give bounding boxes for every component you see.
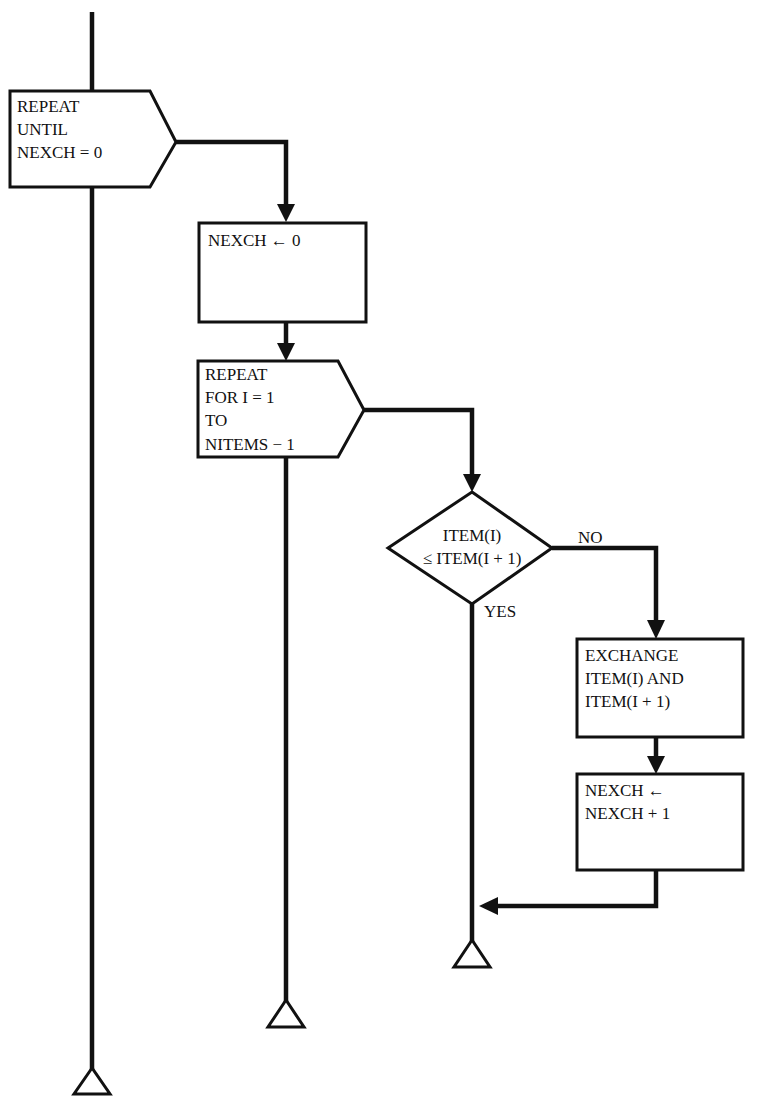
inner-loop-line-2: FOR I = 1 bbox=[205, 388, 275, 407]
inner-loop-line-4: NITEMS − 1 bbox=[205, 435, 295, 454]
decision-yes-label: YES bbox=[484, 602, 516, 621]
exchange-line-3: ITEM(I + 1) bbox=[585, 692, 670, 711]
init-step: NEXCH ← 0 bbox=[199, 223, 366, 361]
arrow-down-icon bbox=[277, 204, 295, 222]
compare-items-decision[interactable] bbox=[388, 492, 552, 604]
inner-body-connector bbox=[364, 410, 472, 476]
no-branch-line bbox=[552, 548, 656, 622]
return-line bbox=[496, 870, 656, 906]
inner-loop-line-1: REPEAT bbox=[205, 365, 268, 384]
increment-step: NEXCH ← NEXCH + 1 bbox=[479, 774, 743, 915]
arrow-left-icon bbox=[479, 897, 498, 915]
outer-loop-end-terminator-icon bbox=[74, 1068, 110, 1094]
inner-loop-end-terminator-icon bbox=[268, 1000, 304, 1027]
flowchart-canvas: REPEAT UNTIL NEXCH = 0 NEXCH ← 0 REPEAT … bbox=[0, 0, 760, 1108]
outer-loop: REPEAT UNTIL NEXCH = 0 bbox=[10, 12, 295, 1094]
decision-line-2: ≤ ITEM(I + 1) bbox=[423, 549, 522, 568]
decision-line-1: ITEM(I) bbox=[443, 526, 502, 545]
exchange-step: EXCHANGE ITEM(I) AND ITEM(I + 1) bbox=[577, 639, 743, 774]
arrow-down-icon bbox=[463, 474, 481, 492]
exchange-line-2: ITEM(I) AND bbox=[585, 669, 684, 688]
exchange-line-1: EXCHANGE bbox=[585, 646, 679, 665]
outer-loop-line-1: REPEAT bbox=[17, 97, 80, 116]
arrow-down-icon bbox=[277, 343, 295, 361]
arrow-down-icon bbox=[647, 756, 665, 774]
inner-loop: REPEAT FOR I = 1 TO NITEMS − 1 bbox=[198, 361, 481, 1027]
inner-loop-line-3: TO bbox=[205, 411, 227, 430]
init-box-line-1: NEXCH ← 0 bbox=[208, 231, 301, 250]
decision-no-label: NO bbox=[578, 528, 603, 547]
decision-end-terminator-icon bbox=[454, 940, 490, 967]
increment-line-1: NEXCH ← bbox=[585, 781, 665, 800]
outer-loop-line-3: NEXCH = 0 bbox=[17, 143, 102, 162]
outer-body-connector bbox=[176, 142, 286, 206]
outer-loop-line-2: UNTIL bbox=[17, 120, 68, 139]
increment-line-2: NEXCH + 1 bbox=[585, 804, 670, 823]
arrow-down-icon bbox=[647, 620, 665, 639]
